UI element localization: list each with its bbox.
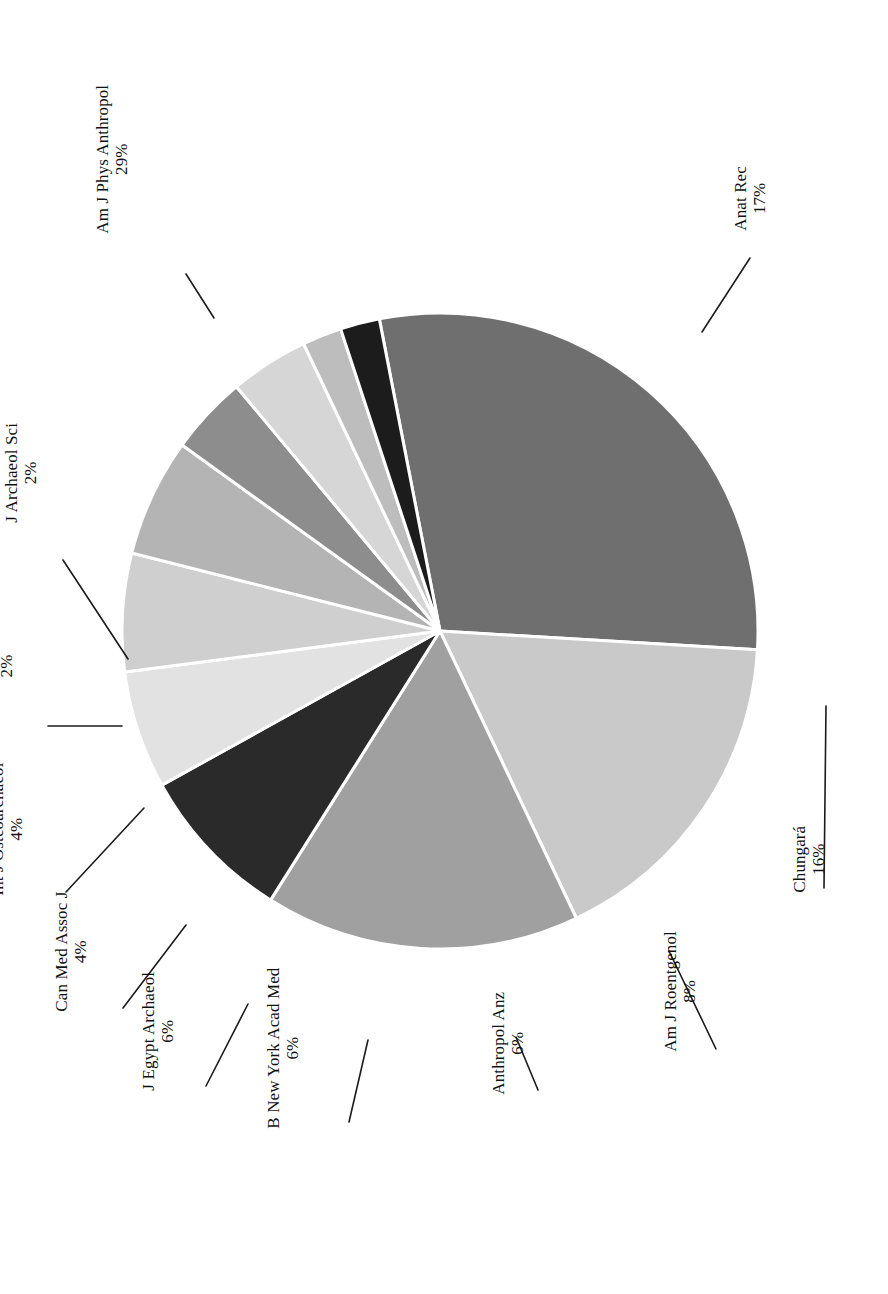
leader-line <box>669 951 716 1049</box>
leader-line <box>349 1040 368 1122</box>
leader-line <box>516 1037 538 1090</box>
leader-line <box>123 925 186 1008</box>
leader-line <box>186 274 214 318</box>
leader-line <box>63 560 128 659</box>
leader-line <box>66 808 144 892</box>
pie-chart-svg <box>0 0 888 1294</box>
leader-line <box>824 706 826 888</box>
pie-slice <box>379 313 758 650</box>
pie-slices-group <box>122 313 758 949</box>
leader-line <box>702 258 750 332</box>
leader-line <box>206 1004 248 1086</box>
pie-chart-figure: Am J Phys Anthropol29%Anat Rec17%Chungar… <box>0 0 888 1294</box>
